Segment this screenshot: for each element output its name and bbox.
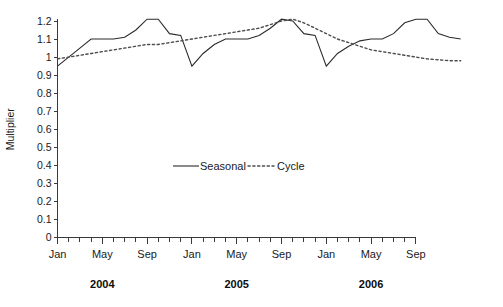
chart-figure: 00.10.20.30.40.50.60.70.80.911.11.2Multi… (0, 0, 503, 307)
x-axis-tick-label: Jan (183, 248, 201, 260)
x-axis-year-label: 2004 (90, 278, 115, 290)
y-axis-title: Multiplier (4, 108, 16, 151)
y-axis-tick-label: 0.2 (37, 195, 52, 207)
x-axis-tick-label: Sep (406, 248, 426, 260)
legend-label-seasonal: Seasonal (200, 160, 246, 172)
series-line-seasonal (58, 19, 461, 66)
x-axis-tick-label: May (92, 248, 113, 260)
x-axis-tick-label: Jan (317, 248, 335, 260)
y-axis-tick-label: 0.6 (37, 123, 52, 135)
legend-label-cycle: Cycle (277, 160, 305, 172)
y-axis-tick-label: 1.2 (37, 15, 52, 27)
y-axis-tick-label: 0 (46, 231, 52, 243)
y-axis-tick-label: 0.7 (37, 105, 52, 117)
y-axis-tick-label: 0.9 (37, 69, 52, 81)
y-axis-tick-label: 0.5 (37, 141, 52, 153)
x-axis-tick-label: Sep (137, 248, 157, 260)
x-axis-tick-label: Jan (49, 248, 67, 260)
x-axis-tick-label: Sep (272, 248, 292, 260)
x-axis-year-label: 2005 (224, 278, 248, 290)
y-axis-tick-label: 0.1 (37, 213, 52, 225)
x-axis-tick-label: May (361, 248, 382, 260)
x-axis-year-label: 2006 (359, 278, 383, 290)
y-axis-tick-label: 0.4 (37, 159, 52, 171)
y-axis-tick-label: 1 (46, 51, 52, 63)
y-axis-tick-label: 1.1 (37, 33, 52, 45)
x-axis-tick-label: May (226, 248, 247, 260)
series-line-cycle (58, 19, 461, 60)
y-axis-tick-label: 0.3 (37, 177, 52, 189)
y-axis-tick-label: 0.8 (37, 87, 52, 99)
